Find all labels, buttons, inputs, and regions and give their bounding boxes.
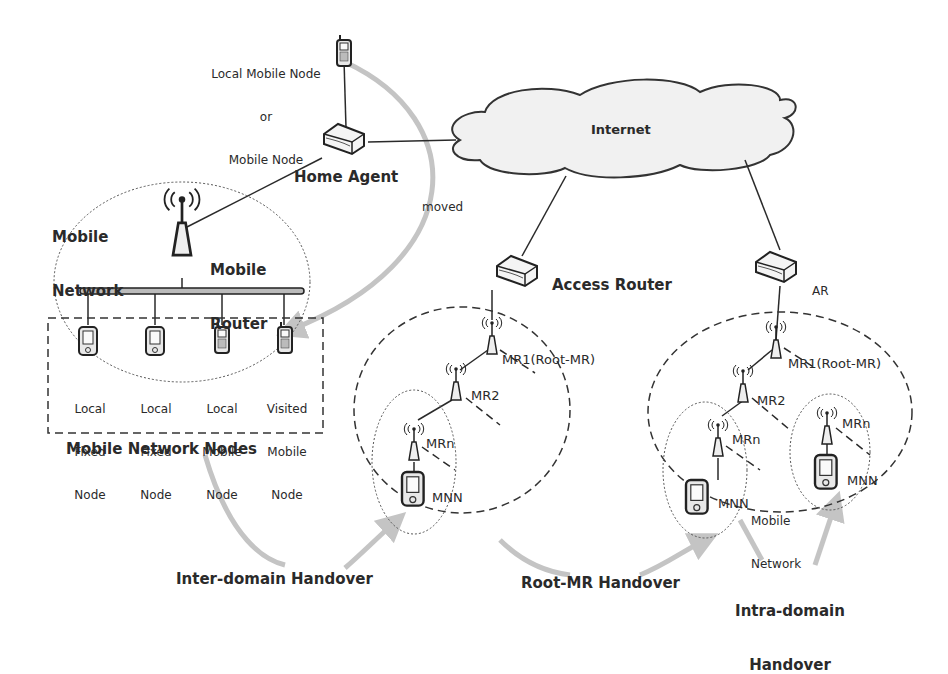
node-3-line1: Visited: [257, 402, 317, 416]
node-0-line3: Node: [62, 488, 118, 502]
access-router-icon: [497, 256, 537, 286]
access-router-label: Access Router: [552, 276, 672, 294]
internet-label: Internet: [591, 122, 651, 138]
mr1-tower-icon: [482, 317, 501, 354]
intra-domain-line1: Intra-domain: [725, 602, 855, 620]
d2-mnn-left-label: MNN: [718, 496, 749, 512]
home-agent-label: Home Agent: [294, 168, 398, 186]
mrn-tower-icon: [404, 423, 423, 460]
d2-mnn-right-pda-icon: [815, 455, 837, 489]
root-mr-handover-label: Root-MR Handover: [521, 574, 680, 592]
d2-mrn-left-tower-icon: [708, 419, 727, 456]
mobile-router-label-line2: Router: [210, 315, 267, 333]
top-node-label-line2: or: [198, 110, 334, 124]
cellphone-icon: [278, 322, 292, 353]
mnn-pda-icon: [402, 472, 424, 506]
d2-mr2-label: MR2: [757, 393, 786, 409]
mobile-network-label-line1: Mobile: [52, 228, 123, 246]
d2-mrn-right-label: MRn: [842, 416, 871, 432]
pda-icon: [79, 327, 97, 355]
d2-mr2-tower-icon: [733, 365, 752, 402]
d2-subnet-label-line1: Mobile: [751, 514, 801, 528]
top-node-label-line3: Mobile Node: [198, 153, 334, 167]
mobile-router-label: Mobile Router: [210, 225, 267, 351]
d1-mnn-label: MNN: [432, 490, 463, 506]
d2-mrn-left-label: MRn: [732, 432, 761, 448]
node-1-line3: Node: [128, 488, 184, 502]
ar-router-icon: [756, 252, 796, 282]
mobile-router-label-line1: Mobile: [210, 261, 267, 279]
d2-mnn-right-label: MNN: [847, 473, 878, 489]
top-node-label-line1: Local Mobile Node: [198, 67, 334, 81]
inter-domain-handover-label: Inter-domain Handover: [176, 570, 373, 588]
d1-mrn-label: MRn: [426, 436, 455, 452]
d2-mrn-right-tower-icon: [817, 407, 836, 444]
node-2-line3: Node: [194, 488, 250, 502]
node-3-line3: Node: [257, 488, 317, 502]
d1-mr1-label: MR1(Root-MR): [502, 352, 595, 368]
d2-mnn-left-pda-icon: [686, 480, 708, 514]
root-mr-arrow: [500, 540, 705, 575]
intra-domain-handover-label: Intra-domain Handover: [725, 566, 855, 674]
d2-mr1-label: MR1(Root-MR): [788, 356, 881, 372]
pda-icon: [146, 327, 164, 355]
moved-label: moved: [422, 200, 463, 214]
mobile-network-label-line2: Network: [52, 282, 123, 300]
node-2-line1: Local: [194, 402, 250, 416]
ar-label: AR: [812, 284, 829, 298]
domain2-subnet-right-boundary: [790, 394, 870, 510]
mobile-network-nodes-label: Mobile Network Nodes: [66, 440, 257, 458]
top-node-label: Local Mobile Node or Mobile Node: [198, 38, 334, 182]
node-0-line1: Local: [62, 402, 118, 416]
top-mobile-node-icon: [337, 35, 351, 66]
mobile-router-icon: [165, 189, 200, 256]
domain2-subnet-left-boundary: [663, 402, 747, 538]
mobile-network-label: Mobile Network: [52, 192, 123, 318]
intra-domain-line2: Handover: [725, 656, 855, 674]
domain1-boundary: [354, 307, 570, 513]
node-1-line1: Local: [128, 402, 184, 416]
d1-mr2-label: MR2: [471, 388, 500, 404]
node-3-line2: Mobile: [257, 445, 317, 459]
node-label-3: Visited Mobile Node: [257, 373, 317, 517]
